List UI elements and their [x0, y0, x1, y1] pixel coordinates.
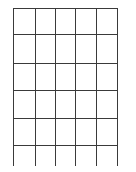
grid-vertical-line	[96, 8, 97, 166]
grid-vertical-line	[117, 8, 118, 166]
grid-vertical-line	[75, 8, 76, 166]
grid-horizontal-line	[13, 118, 118, 119]
grid-horizontal-line	[13, 8, 118, 9]
grid-horizontal-line	[13, 63, 118, 64]
grid-diagram	[0, 0, 136, 172]
grid-horizontal-line	[13, 145, 118, 146]
grid-horizontal-line	[13, 34, 118, 35]
grid-horizontal-line	[13, 90, 118, 91]
grid-vertical-line	[55, 8, 56, 166]
grid-vertical-line	[13, 8, 14, 166]
grid-vertical-line	[35, 8, 36, 166]
